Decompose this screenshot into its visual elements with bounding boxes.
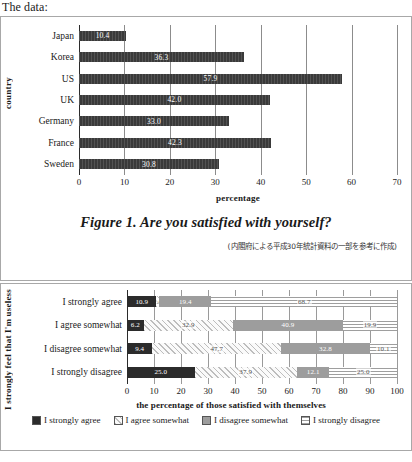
bar-value-label: 57.9: [204, 74, 218, 83]
stacked-bar-segment: 10.9: [127, 296, 156, 307]
figure2-x-ticks: 0102030405060708090100: [127, 386, 397, 400]
legend-item: I agree somewhat: [114, 415, 189, 425]
figure2-plot: I strongly agree10.91.019.468.7I agree s…: [127, 290, 397, 384]
x-tick-label: 100: [390, 386, 404, 396]
figure2-y-axis-label: I strongly feel that I'm useless: [3, 288, 13, 410]
bar-row: France42.3: [79, 132, 397, 153]
stacked-bar-category-label: I disagree somewhat: [44, 344, 122, 354]
bar: 10.4: [79, 31, 126, 41]
figure1-plot: Japan10.4Korea36.3US57.9UK42.0Germany33.…: [79, 25, 397, 175]
segment-value-label: 19.9: [363, 321, 378, 329]
stacked-bar-segment: 25.0: [127, 367, 195, 378]
solid-gray-swatch: [202, 416, 211, 425]
segment-value-label: 1.0: [156, 298, 159, 306]
bar: 57.9: [79, 74, 342, 84]
stacked-bar: 6.232.940.919.9: [127, 320, 397, 331]
figure2-y-axis-line: [127, 290, 128, 384]
bar: 42.0: [79, 95, 270, 105]
x-tick-label: 30: [211, 177, 220, 187]
bar-value-label: 30.8: [142, 160, 156, 169]
bar-category-label: Sweden: [44, 159, 74, 169]
segment-value-label: 9.4: [134, 345, 145, 353]
stacked-bar-category-label: I agree somewhat: [55, 320, 122, 330]
x-tick-label: 50: [302, 177, 311, 187]
stacked-bar: 25.037.912.125.0: [127, 367, 397, 378]
segment-value-label: 12.1: [306, 368, 321, 376]
intro-text: The data:: [0, 0, 412, 16]
horizontal-line-swatch: [301, 416, 310, 425]
bar-row: UK42.0: [79, 89, 397, 110]
x-tick-label: 20: [177, 386, 186, 396]
stacked-bar-segment: 12.1: [297, 367, 330, 378]
figure1-caption: Figure 1. Are you satisfied with yoursel…: [1, 214, 411, 231]
segment-value-label: 10.9: [134, 298, 149, 306]
x-tick-label: 60: [347, 177, 356, 187]
bar-category-label: Germany: [39, 116, 74, 126]
x-tick-label: 40: [256, 177, 265, 187]
x-tick-label: 0: [77, 177, 82, 187]
bar-category-label: UK: [60, 95, 74, 105]
x-tick-label: 20: [165, 177, 174, 187]
solid-dark-swatch: [32, 416, 41, 425]
bar-value-label: 10.4: [96, 31, 110, 40]
legend-item: I strongly disagree: [301, 415, 380, 425]
stacked-bar-segment: 32.9: [144, 320, 233, 331]
figure2-x-axis-label: the percentage of those satisfied with t…: [61, 400, 401, 410]
legend-item: I disagree somewhat: [202, 415, 288, 425]
bar-row: US57.9: [79, 68, 397, 89]
bar: 30.8: [79, 159, 219, 169]
figure1-panel: country Japan10.4Korea36.3US57.9UK42.0Ge…: [0, 16, 412, 281]
figure2-panel: I strongly feel that I'm useless I stron…: [0, 283, 412, 451]
bar-value-label: 42.3: [168, 138, 182, 147]
segment-value-label: 47.7: [209, 345, 224, 353]
segment-value-label: 32.8: [318, 345, 333, 353]
stacked-bar-segment: 40.9: [233, 320, 344, 331]
stacked-bar-category-label: I strongly agree: [62, 297, 122, 307]
stacked-bar-segment: 9.4: [127, 343, 152, 354]
gridline: [397, 25, 398, 175]
gridline: [397, 290, 398, 384]
segment-value-label: 68.7: [297, 298, 312, 306]
x-tick-label: 60: [285, 386, 294, 396]
bar-category-label: Korea: [51, 52, 74, 62]
bar-row: Germany33.0: [79, 111, 397, 132]
bar-category-label: France: [48, 138, 74, 148]
bar-value-label: 33.0: [147, 117, 161, 126]
bar-value-label: 42.0: [167, 95, 181, 104]
stacked-bar-segment: 47.7: [152, 343, 281, 354]
segment-value-label: 32.9: [181, 321, 196, 329]
figure1-source-note: (内閣府による平成30年統計資料の一部を参考に作成): [1, 240, 411, 251]
figure1-x-axis-label: percentage: [79, 193, 397, 203]
legend-label: I disagree somewhat: [214, 415, 288, 425]
x-tick-label: 0: [125, 386, 130, 396]
legend-label: I agree somewhat: [126, 415, 189, 425]
stacked-bar-segment: 19.9: [343, 320, 397, 331]
bar: 36.3: [79, 52, 244, 62]
legend-label: I strongly agree: [44, 415, 100, 425]
bar-value-label: 36.3: [154, 53, 168, 62]
bar-row: Korea36.3: [79, 46, 397, 67]
stacked-bar-segment: 32.8: [281, 343, 370, 354]
x-tick-label: 50: [258, 386, 267, 396]
stacked-bar-segment: 37.9: [195, 367, 297, 378]
stacked-bar-category-label: I strongly disagree: [51, 367, 122, 377]
bar: 33.0: [79, 116, 229, 126]
x-tick-label: 70: [393, 177, 402, 187]
stacked-bar-segment: 25.0: [329, 367, 397, 378]
bar: 42.3: [79, 138, 271, 148]
figure1-y-axis-label: country: [3, 77, 13, 109]
stacked-bar-segment: 6.2: [127, 320, 144, 331]
stacked-bar-row: I strongly agree10.91.019.468.7: [127, 290, 397, 314]
x-tick-label: 10: [150, 386, 159, 396]
segment-value-label: 25.0: [356, 368, 371, 376]
stacked-bar-row: I agree somewhat6.232.940.919.9: [127, 314, 397, 338]
stacked-bar-row: I strongly disagree25.037.912.125.0: [127, 361, 397, 385]
legend-label: I strongly disagree: [313, 415, 380, 425]
bar-row: Sweden30.8: [79, 154, 397, 175]
bar-category-label: Japan: [52, 31, 74, 41]
x-tick-label: 70: [312, 386, 321, 396]
diagonal-hatch-swatch: [114, 416, 123, 425]
stacked-bar: 9.447.732.810.1: [127, 343, 397, 354]
stacked-bar-row: I disagree somewhat9.447.732.810.1: [127, 337, 397, 361]
stacked-bar-segment: 19.4: [159, 296, 211, 307]
